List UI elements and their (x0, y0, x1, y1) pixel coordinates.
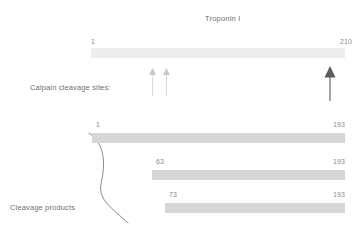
full-length-end-label: 210 (325, 38, 352, 45)
full-length-protein-bar (91, 48, 345, 58)
cleavage-arrow-63-icon (149, 68, 156, 96)
product-2-end-label: 193 (318, 158, 345, 165)
cleavage-site-arrows (0, 0, 362, 232)
product-2-bar (152, 170, 345, 180)
product-3-start-label: 73 (169, 191, 177, 198)
product-1-start-label: 1 (96, 121, 100, 128)
product-1-end-label: 193 (318, 121, 345, 128)
cleavage-arrow-193-icon (325, 66, 336, 101)
troponin-cleavage-diagram: Troponin I 1 210 Calpain cleavage sites:… (0, 0, 362, 232)
cleavage-arrow-73-icon (163, 68, 170, 96)
calpain-cleavage-sites-label: Calpain cleavage sites: (30, 83, 111, 92)
cleavage-products-brace-icon (89, 133, 128, 223)
product-2-start-label: 63 (156, 158, 164, 165)
page-title: Troponin I (205, 14, 241, 23)
product-3-end-label: 193 (318, 191, 345, 198)
product-1-bar (92, 133, 345, 143)
cleavage-products-label: Cleavage products (10, 203, 75, 212)
product-3-bar (165, 203, 345, 213)
full-length-start-label: 1 (91, 38, 95, 45)
